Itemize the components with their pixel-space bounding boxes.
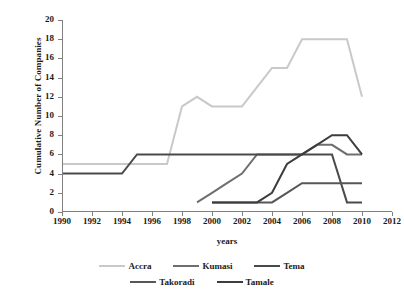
x-tick-label-2012: 2012	[372, 216, 404, 226]
y-tick-2: 2	[58, 193, 62, 194]
legend-label-kumasi: Kumasi	[202, 261, 232, 271]
y-tick-6: 6	[58, 154, 62, 155]
plot-area: 02468101214161820 1990199219941996199820…	[62, 20, 392, 212]
y-tick-20: 20	[58, 20, 62, 21]
y-tick-10: 10	[58, 116, 62, 117]
y-tick-label-12: 12	[34, 91, 54, 101]
y-tick-label-8: 8	[34, 129, 54, 139]
y-tick-8: 8	[58, 135, 62, 136]
series-line-takoradi	[212, 183, 362, 202]
legend-item-takoradi[interactable]: Takoradi	[130, 277, 194, 287]
y-axis-line	[62, 20, 63, 212]
legend-swatch-tema	[254, 265, 280, 267]
y-tick-label-18: 18	[34, 33, 54, 43]
legend-item-tamale[interactable]: Tamale	[217, 277, 274, 287]
legend-row-1: AccraKumasiTema	[0, 258, 404, 274]
y-tick-label-14: 14	[34, 72, 54, 82]
legend-label-tema: Tema	[283, 261, 304, 271]
y-tick-label-2: 2	[34, 187, 54, 197]
legend-swatch-takoradi	[130, 281, 156, 283]
chart-legend: AccraKumasiTema TakoradiTamale	[0, 258, 404, 290]
legend-label-tamale: Tamale	[246, 277, 274, 287]
y-tick-label-6: 6	[34, 148, 54, 158]
legend-item-accra[interactable]: Accra	[99, 261, 151, 271]
y-tick-label-16: 16	[34, 52, 54, 62]
y-tick-label-10: 10	[34, 110, 54, 120]
legend-item-kumasi[interactable]: Kumasi	[173, 261, 232, 271]
y-tick-12: 12	[58, 97, 62, 98]
legend-label-accra: Accra	[128, 261, 151, 271]
x-axis-title: years	[62, 236, 392, 246]
y-tick-label-4: 4	[34, 168, 54, 178]
x-axis-line	[62, 211, 392, 212]
y-tick-16: 16	[58, 58, 62, 59]
legend-row-2: TakoradiTamale	[0, 274, 404, 290]
legend-item-tema[interactable]: Tema	[254, 261, 304, 271]
legend-swatch-kumasi	[173, 265, 199, 267]
y-tick-label-20: 20	[34, 14, 54, 24]
y-tick-label-0: 0	[34, 206, 54, 216]
legend-swatch-accra	[99, 265, 125, 267]
series-line-tema	[62, 154, 362, 202]
legend-swatch-tamale	[217, 281, 243, 283]
y-tick-14: 14	[58, 78, 62, 79]
legend-label-takoradi: Takoradi	[159, 277, 194, 287]
series-lines	[62, 20, 392, 212]
chart-figure: Cumulative Number of Companies 024681012…	[0, 0, 404, 301]
y-tick-4: 4	[58, 174, 62, 175]
y-tick-18: 18	[58, 39, 62, 40]
